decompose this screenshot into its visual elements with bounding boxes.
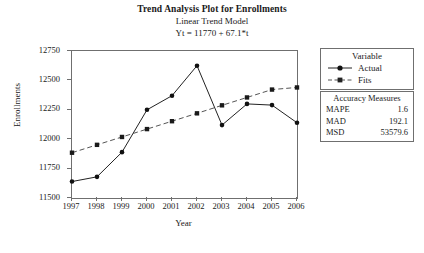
data-point-actual xyxy=(245,102,250,107)
x-axis-label: Year xyxy=(71,218,296,228)
data-point-actual xyxy=(195,63,200,68)
y-axis-tick-labels: 115001175012000122501250012750 xyxy=(0,0,67,253)
data-point-actual xyxy=(170,93,175,98)
y-axis-label: Enrollments xyxy=(12,60,22,150)
legend-title: Variable xyxy=(321,51,413,62)
y-axis-tick-label: 11500 xyxy=(39,193,60,202)
accuracy-measures-box: Accuracy Measures MAPE 1.6 MAD 192.1 MSD… xyxy=(320,91,414,142)
data-point-fits xyxy=(120,135,124,139)
x-axis-tick-label: 2006 xyxy=(281,202,311,211)
data-point-fits xyxy=(220,103,224,107)
accuracy-value-msd: 53579.6 xyxy=(380,127,408,139)
accuracy-row-msd: MSD 53579.6 xyxy=(321,127,413,139)
accuracy-label-mad: MAD xyxy=(326,116,346,128)
data-point-actual xyxy=(70,179,75,184)
accuracy-label-mape: MAPE xyxy=(326,104,350,116)
y-axis-tick-label: 12250 xyxy=(39,104,60,113)
series-line-actual xyxy=(72,66,297,182)
accuracy-row-mape: MAPE 1.6 xyxy=(321,104,413,116)
y-axis-tick-label: 12750 xyxy=(39,46,60,55)
y-axis-tick-label: 12500 xyxy=(39,75,60,84)
data-point-actual xyxy=(220,123,225,128)
data-point-actual xyxy=(295,120,300,125)
legend-item-actual: Actual xyxy=(321,62,413,74)
plot-area xyxy=(71,50,298,199)
data-point-fits xyxy=(170,119,174,123)
accuracy-value-mape: 1.6 xyxy=(397,104,408,116)
data-point-actual xyxy=(145,108,150,113)
y-axis-tick-label: 11750 xyxy=(39,163,60,172)
circle-marker-icon xyxy=(327,63,353,73)
data-point-fits xyxy=(270,87,274,91)
data-point-fits xyxy=(145,127,149,131)
series-line-fits xyxy=(72,87,297,152)
data-point-actual xyxy=(95,175,100,180)
accuracy-label-msd: MSD xyxy=(326,127,344,139)
data-point-fits xyxy=(95,143,99,147)
data-point-actual xyxy=(270,103,275,108)
series-canvas xyxy=(72,51,297,198)
legend-label-fits: Fits xyxy=(358,74,372,86)
data-point-actual xyxy=(120,150,125,155)
accuracy-value-mad: 192.1 xyxy=(389,116,408,128)
data-point-fits xyxy=(245,95,249,99)
accuracy-title: Accuracy Measures xyxy=(321,93,413,104)
legend-label-actual: Actual xyxy=(358,62,382,74)
y-axis-tick-label: 12000 xyxy=(39,134,60,143)
data-point-fits xyxy=(70,151,74,155)
square-marker-icon xyxy=(327,75,353,85)
chart-figure: Trend Analysis Plot for Enrollments Line… xyxy=(0,0,424,253)
data-point-fits xyxy=(195,111,199,115)
data-point-fits xyxy=(295,85,299,89)
legend-box: Variable Actual Fits xyxy=(320,48,414,90)
legend-item-fits: Fits xyxy=(321,74,413,86)
accuracy-row-mad: MAD 192.1 xyxy=(321,116,413,128)
